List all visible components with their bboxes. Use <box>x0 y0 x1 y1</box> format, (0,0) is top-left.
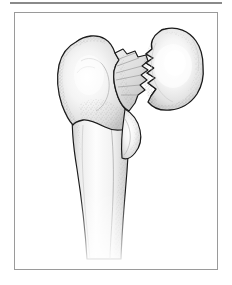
femoral-shaft <box>72 109 128 259</box>
figure-frame: Line drawing of the upper end of a femur… <box>14 12 218 270</box>
femur-fracture-illustration <box>15 13 217 269</box>
femoral-head <box>143 28 203 110</box>
top-divider-rule <box>10 2 222 4</box>
lesser-trochanter <box>122 109 141 159</box>
figure-page: Line drawing of the upper end of a femur… <box>0 0 232 285</box>
